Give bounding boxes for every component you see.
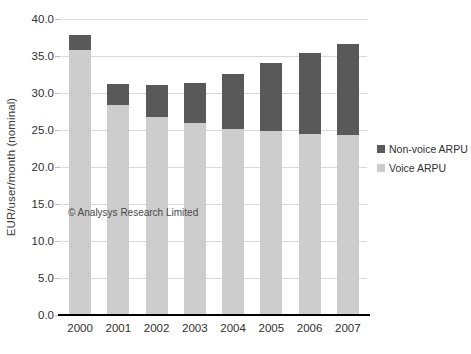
y-axis-tick: [55, 241, 60, 242]
y-axis-tick: [55, 19, 60, 20]
x-axis-tick-label: 2001: [98, 322, 138, 334]
bar-segment-voice-arpu[interactable]: [299, 134, 321, 315]
bar-segment-non-voice-arpu[interactable]: [337, 44, 359, 135]
gridline: [61, 19, 367, 20]
x-axis-tick-label: 2002: [137, 322, 177, 334]
bar-segment-voice-arpu[interactable]: [337, 135, 359, 315]
y-axis-tick-label: 5.0: [18, 272, 54, 284]
y-axis-tick: [55, 204, 60, 205]
y-axis-tick-label: 35.0: [18, 50, 54, 62]
bar-segment-non-voice-arpu[interactable]: [222, 74, 244, 129]
x-axis-tick-label: 2000: [60, 322, 100, 334]
bar-segment-voice-arpu[interactable]: [260, 131, 282, 315]
bar-segment-voice-arpu[interactable]: [222, 129, 244, 315]
y-axis-tick-label: 40.0: [18, 13, 54, 25]
bar-stack[interactable]: [107, 84, 129, 315]
gridline: [61, 56, 367, 57]
bar-segment-non-voice-arpu[interactable]: [184, 83, 206, 124]
copyright-watermark: © Analysys Research Limited: [68, 207, 198, 218]
chart-legend: Non-voice ARPUVoice ARPU: [377, 143, 468, 174]
x-axis-line: [58, 314, 370, 316]
legend-item-label: Non-voice ARPU: [389, 143, 468, 155]
y-axis-tick: [55, 278, 60, 279]
y-axis-tick-label: 15.0: [18, 198, 54, 210]
bar-stack[interactable]: [146, 85, 168, 315]
bar-stack[interactable]: [222, 74, 244, 315]
y-axis-tick-labels: 40.035.030.025.020.015.010.05.00.0: [14, 0, 54, 354]
x-axis-tick-label: 2007: [328, 322, 368, 334]
bar-stack[interactable]: [299, 53, 321, 315]
x-axis-tick-label: 2005: [251, 322, 291, 334]
bar-segment-non-voice-arpu[interactable]: [69, 35, 91, 50]
x-axis-tick-label: 2006: [290, 322, 330, 334]
y-axis-tick-label: 20.0: [18, 161, 54, 173]
bar-segment-non-voice-arpu[interactable]: [299, 53, 321, 134]
bar-stack[interactable]: [260, 63, 282, 315]
bar-segment-non-voice-arpu[interactable]: [260, 63, 282, 132]
bar-stack[interactable]: [337, 44, 359, 315]
y-axis-tick-label: 30.0: [18, 87, 54, 99]
bar-segment-voice-arpu[interactable]: [69, 50, 91, 315]
x-axis-tick-label: 2004: [213, 322, 253, 334]
y-axis-tick-label: 25.0: [18, 124, 54, 136]
legend-item-label: Voice ARPU: [389, 162, 446, 174]
y-axis-tick: [55, 56, 60, 57]
bar-segment-non-voice-arpu[interactable]: [107, 84, 129, 105]
plot-area: [61, 19, 367, 315]
y-axis-tick: [55, 167, 60, 168]
bar-segment-non-voice-arpu[interactable]: [146, 85, 168, 117]
bar-segment-voice-arpu[interactable]: [184, 123, 206, 315]
legend-swatch-icon: [377, 164, 385, 172]
y-axis-tick-label: 10.0: [18, 235, 54, 247]
legend-item[interactable]: Voice ARPU: [377, 162, 468, 174]
y-axis-tick: [55, 93, 60, 94]
x-axis-tick-label: 2003: [175, 322, 215, 334]
bar-stack[interactable]: [69, 35, 91, 315]
arpu-stacked-bar-chart: EUR/user/month (nominal) 40.035.030.025.…: [0, 0, 471, 354]
bar-stack[interactable]: [184, 83, 206, 315]
y-axis-tick-label: 0.0: [18, 309, 54, 321]
legend-item[interactable]: Non-voice ARPU: [377, 143, 468, 155]
y-axis-tick: [55, 130, 60, 131]
legend-swatch-icon: [377, 145, 385, 153]
